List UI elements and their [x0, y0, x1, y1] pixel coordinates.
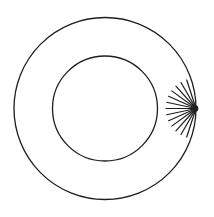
inner-circle [53, 56, 158, 161]
ray-convergence-hub [193, 105, 199, 111]
figure-canvas [0, 0, 214, 217]
concentric-circles-diagram [0, 0, 214, 217]
